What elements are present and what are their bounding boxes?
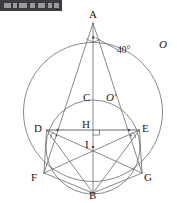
label-circle-outer-o: O (159, 39, 167, 50)
label-point-h: H (82, 119, 90, 130)
geometry-figure: A 40° O C O' D H E I F G B (0, 0, 180, 203)
angle-tick-at-E-outer (133, 133, 136, 138)
angle-leader-line-40deg (96, 38, 118, 50)
dot-angle-mark-D (56, 135, 58, 137)
label-angle-40-degrees: 40° (117, 46, 130, 56)
dot-angle-vertex-marker (92, 36, 95, 39)
right-angle-mark-at-H (93, 130, 100, 135)
dot-angle-mark-E (130, 135, 132, 137)
label-vertex-d: D (34, 123, 42, 134)
segment-E-F (44, 130, 140, 173)
label-vertex-f: F (31, 172, 37, 183)
label-vertex-c: C (83, 92, 90, 103)
label-vertex-b: B (89, 190, 96, 201)
dot-on-DE-left (56, 129, 58, 131)
segment-D-G (47, 130, 143, 173)
dot-incenter-I (92, 146, 95, 149)
label-vertex-g: G (144, 172, 152, 183)
label-point-i: I (85, 139, 89, 150)
label-circle-inner-o-prime: O' (106, 92, 116, 103)
dot-on-DE-right (128, 129, 130, 131)
label-vertex-a: A (89, 9, 97, 20)
angle-tick-at-D-outer (51, 133, 54, 138)
label-vertex-e: E (142, 123, 149, 134)
